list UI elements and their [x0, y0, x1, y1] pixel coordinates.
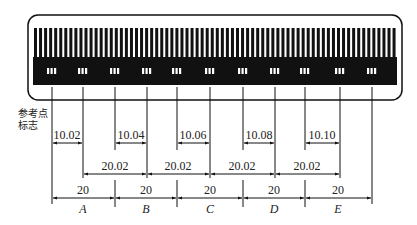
- row2-dimension-labels: 20.02 20.02 20.02 20.02: [102, 159, 321, 173]
- dim-label-20: 20: [332, 183, 344, 197]
- section-label-b: B: [142, 202, 150, 216]
- dim-label-10-10: 10.10: [309, 128, 336, 142]
- scale-diagram: 参考点 标志 10.02 10.04 10.06 10.08 10.10 20.…: [0, 0, 417, 225]
- section-labels: A B C D E: [78, 202, 342, 216]
- row3-dimension-labels: 20 20 20 20 20: [77, 183, 344, 197]
- dim-label-20: 20: [140, 183, 152, 197]
- dim-label-20: 20: [268, 183, 280, 197]
- row1-dimension-labels: 10.02 10.04 10.06 10.08 10.10: [54, 128, 336, 142]
- dim-label-20-02: 20.02: [229, 159, 256, 173]
- dim-label-20: 20: [204, 183, 216, 197]
- dim-label-10-06: 10.06: [180, 128, 207, 142]
- section-label-a: A: [78, 202, 87, 216]
- dim-label-20-02: 20.02: [165, 159, 192, 173]
- reference-mark-label: 标志: [18, 119, 38, 131]
- dim-label-20-02: 20.02: [102, 159, 129, 173]
- section-label-e: E: [333, 202, 342, 216]
- dim-label-20: 20: [77, 183, 89, 197]
- dim-label-10-04: 10.04: [118, 128, 145, 142]
- section-label-c: C: [206, 202, 215, 216]
- reference-mark-label: 参考点: [18, 107, 48, 119]
- dim-label-10-08: 10.08: [246, 128, 273, 142]
- dim-label-20-02: 20.02: [294, 159, 321, 173]
- dim-label-10-02: 10.02: [54, 128, 81, 142]
- section-label-d: D: [269, 202, 279, 216]
